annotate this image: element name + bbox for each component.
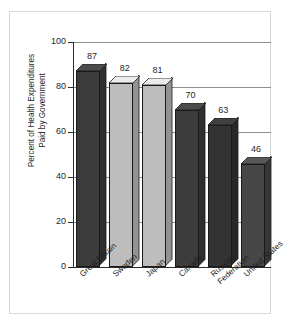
bar-great-britain[interactable]: 87	[76, 71, 100, 267]
bar-top-face	[109, 76, 141, 84]
bar-top-face	[142, 78, 174, 86]
bar-value-label: 46	[251, 145, 261, 154]
bar-value-label: 70	[185, 91, 195, 100]
bar-value-label: 87	[87, 52, 97, 61]
bar-canada[interactable]: 70	[175, 110, 199, 268]
plot-area: 878281706346	[74, 42, 271, 267]
bar-japan[interactable]: 81	[142, 85, 166, 267]
bar-front-face	[142, 85, 166, 267]
bar-value-label: 81	[153, 66, 163, 75]
x-axis-tick-labels: Great BritainSwedenJapanCanadaRussianFed…	[74, 268, 274, 327]
bar-top-face	[76, 64, 108, 72]
bar-front-face	[175, 110, 199, 268]
bar-top-face	[208, 118, 240, 126]
bar-russian-federation[interactable]: 63	[208, 125, 232, 267]
bar-top-face	[175, 103, 207, 111]
bar-value-label: 63	[218, 106, 228, 115]
bar-side-face	[99, 63, 107, 267]
y-tick-label-20: 20	[30, 217, 66, 226]
y-tick-label-0: 0	[30, 262, 66, 271]
bar-top-face	[241, 157, 273, 165]
bar-value-label: 82	[120, 64, 130, 73]
bar-sweden[interactable]: 82	[109, 83, 133, 268]
bar-front-face	[241, 164, 265, 268]
bar-side-face	[165, 77, 173, 267]
y-axis-title-line-2: Paid by Government	[37, 31, 48, 191]
chart-frame: 100 80 60 40 20 0 Percent of Health Expe…	[9, 11, 271, 314]
bar-side-face	[198, 102, 206, 268]
bar-united-states[interactable]: 46	[241, 164, 265, 268]
bar-front-face	[76, 71, 100, 267]
bar-front-face	[208, 125, 232, 267]
bar-front-face	[109, 83, 133, 268]
bar-side-face	[132, 75, 140, 268]
y-axis-title-line-1: Percent of Health Expenditures	[27, 54, 36, 167]
y-axis-title: Percent of Health Expenditures Paid by G…	[27, 31, 48, 191]
gridline-100	[74, 42, 271, 43]
